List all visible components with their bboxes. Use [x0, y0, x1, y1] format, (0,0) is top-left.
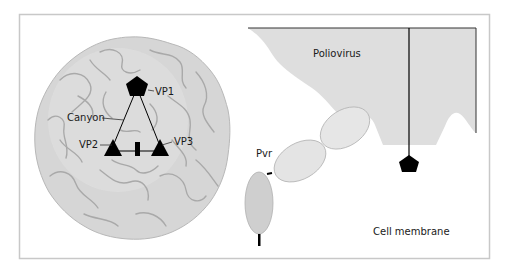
poliovirus-label: Poliovirus — [313, 48, 361, 59]
pvr-transmembrane-stalk — [258, 234, 261, 246]
vp3-label: VP3 — [174, 136, 193, 147]
vp1-label: VP1 — [155, 86, 174, 97]
pvr-label: Pvr — [256, 148, 273, 159]
capsid-sphere — [35, 37, 230, 239]
poliovirus-receptor-diagram: VP1 Canyon VP2 VP3 Poliovirus Pvr Cell m… — [0, 0, 508, 270]
vp2-label: VP2 — [79, 139, 98, 150]
cell-membrane-label: Cell membrane — [373, 226, 450, 237]
pvr-domain-3 — [245, 172, 273, 234]
canyon-label: Canyon — [67, 112, 105, 123]
twofold-axis-bar-icon — [135, 142, 140, 156]
